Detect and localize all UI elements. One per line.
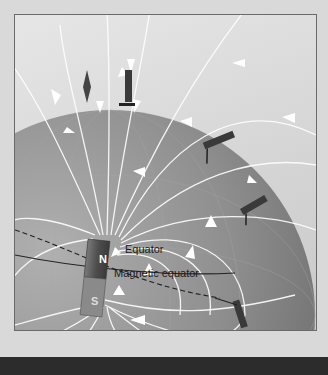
earth-globe bbox=[15, 110, 315, 330]
magnetic-equator-label: Magnetic equator bbox=[114, 267, 199, 279]
bottom-band bbox=[0, 357, 328, 375]
north-pole-label: N bbox=[99, 253, 107, 265]
compass-needle-diamond bbox=[83, 70, 91, 103]
south-pole-label: S bbox=[91, 295, 98, 307]
diagram-frame: N S Equator Magnetic equator bbox=[14, 14, 317, 331]
equator-label: Equator bbox=[125, 243, 164, 255]
magnetic-field-illustration bbox=[15, 15, 316, 330]
